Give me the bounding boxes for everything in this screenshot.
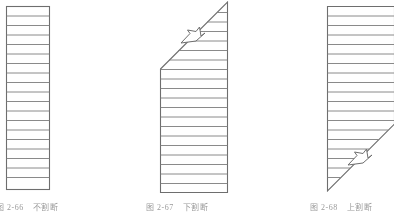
figure-middle-caption-label: 下割断	[183, 203, 209, 212]
figure-right-caption-label: 上割断	[347, 203, 373, 212]
figure-middle-group	[161, 2, 228, 193]
figure-left-outline	[7, 7, 50, 190]
figure-right-caption-number: 图 2-68	[310, 203, 338, 212]
figure-middle-outline	[161, 2, 228, 193]
figures-drawing-canvas	[0, 0, 394, 212]
figure-middle-caption-number: 图 2-67	[146, 203, 174, 212]
figure-page: 图 2-66不割断 图 2-67下割断 图 2-68上割断	[0, 0, 394, 212]
figure-left-caption-number: 图 2-66	[0, 203, 24, 212]
figure-middle-caption: 图 2-67下割断	[146, 201, 208, 212]
figure-left-group	[7, 7, 50, 190]
figure-left-caption-label: 不割断	[33, 203, 59, 212]
figure-left-caption: 图 2-66不割断	[0, 201, 58, 212]
figure-right-caption: 图 2-68上割断	[310, 201, 372, 212]
figure-right-group	[328, 7, 394, 192]
